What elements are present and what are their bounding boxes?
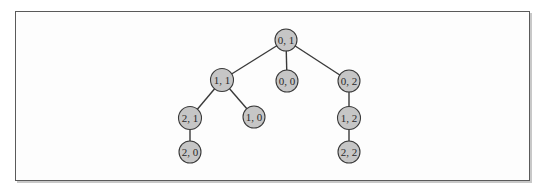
tree-node-2-2: 2, 2 — [338, 141, 360, 163]
node-label: 0, 2 — [341, 75, 358, 87]
node-label: 2, 1 — [182, 112, 199, 124]
nodes: 0, 1 1, 1 0, 0 0, 2 2, 1 1, 0 1, 2 2, 0 — [179, 29, 361, 163]
node-label: 1, 2 — [341, 112, 358, 124]
tree-diagram: 0, 1 1, 1 0, 0 0, 2 2, 1 1, 0 1, 2 2, 0 — [0, 0, 547, 192]
tree-node-1-0: 1, 0 — [243, 106, 265, 128]
tree-node-0-2: 0, 2 — [338, 70, 360, 92]
edges — [190, 40, 349, 152]
tree-node-1-2: 1, 2 — [338, 107, 361, 130]
tree-node-1-1: 1, 1 — [211, 69, 234, 92]
node-label: 0, 0 — [279, 75, 296, 87]
tree-node-0-1: 0, 1 — [275, 29, 297, 51]
tree-node-0-0: 0, 0 — [276, 70, 298, 92]
node-label: 1, 0 — [246, 111, 263, 123]
node-label: 0, 1 — [278, 34, 295, 46]
tree-node-2-0: 2, 0 — [179, 141, 201, 163]
tree-node-2-1: 2, 1 — [179, 107, 202, 130]
node-label: 1, 1 — [214, 74, 231, 86]
node-label: 2, 0 — [182, 146, 199, 158]
node-label: 2, 2 — [341, 146, 358, 158]
